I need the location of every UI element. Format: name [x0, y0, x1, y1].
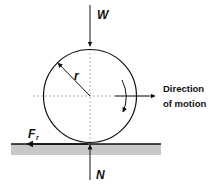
friction-label-subscript: r: [36, 134, 40, 141]
ground-surface: [11, 144, 161, 155]
weight-label: W: [97, 8, 110, 22]
radius-label: r: [74, 69, 80, 83]
direction-label-line2: of motion: [163, 98, 206, 109]
center-lines: [33, 45, 148, 142]
rolling-wheel-diagram: r W Direction of motion F r N: [0, 0, 220, 186]
ground: [11, 144, 161, 155]
direction-label-line1: Direction: [163, 83, 204, 94]
friction-label: F: [28, 127, 36, 141]
normal-force-label: N: [96, 168, 105, 182]
